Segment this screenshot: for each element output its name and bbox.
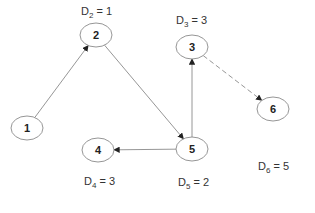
distance-label-3: D3 = 3 <box>176 14 207 29</box>
node-1: 1 <box>11 116 43 140</box>
node-3: 3 <box>176 35 208 59</box>
node-label: 3 <box>189 41 195 53</box>
edges-layer <box>35 45 262 150</box>
distance-label-2: D2 = 1 <box>81 5 112 20</box>
distance-label-6: D6 = 5 <box>258 160 289 175</box>
edge-1-to-2 <box>35 45 88 117</box>
node-6: 6 <box>257 97 289 121</box>
node-label: 5 <box>189 143 195 155</box>
node-5: 5 <box>176 137 208 161</box>
node-label: 4 <box>95 144 102 156</box>
graph-diagram: 123456 D2 = 1D3 = 3D4 = 3D5 = 2D6 = 5 <box>0 0 315 213</box>
edge-2-to-5 <box>105 45 184 139</box>
node-4: 4 <box>82 138 114 162</box>
distance-label-4: D4 = 3 <box>84 175 115 190</box>
edge-5-to-4 <box>114 149 176 150</box>
edge-3-to-6 <box>203 56 262 101</box>
nodes-layer: 123456 <box>11 23 289 162</box>
distance-label-5: D5 = 2 <box>178 176 209 191</box>
node-label: 1 <box>24 122 30 134</box>
node-label: 6 <box>270 103 276 115</box>
node-label: 2 <box>93 29 99 41</box>
node-2: 2 <box>80 23 112 47</box>
